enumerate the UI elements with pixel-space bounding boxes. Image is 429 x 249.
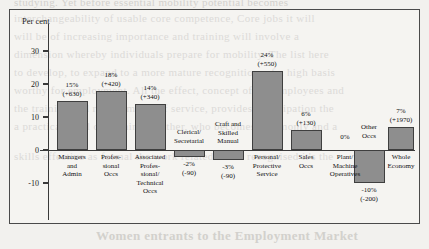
value-absolute: (+630)	[62, 90, 81, 99]
x-category-label-plant-machine-operatives: Plant/ Machine Operatives	[317, 153, 373, 179]
label-line: Technical	[122, 179, 178, 188]
y-tick-label: 0	[35, 146, 39, 155]
label-line: Manual	[200, 137, 256, 146]
label-line: Occs	[341, 132, 397, 141]
value-percent: 18%	[101, 71, 120, 80]
value-percent: -3%	[221, 163, 235, 172]
label-line: Service	[239, 170, 295, 179]
value-absolute: (+550)	[257, 60, 276, 69]
label-line: Other	[341, 123, 397, 132]
value-absolute: (-200)	[360, 195, 378, 204]
value-label-personal-protective-service: 24% (+550)	[257, 51, 276, 68]
x-category-label-whole-economy: Whole Economy	[373, 153, 420, 170]
x-category-label-associated-professional-technical-occs: Associated Profes- sional/ Technical Occ…	[122, 153, 178, 196]
label-line: Operatives	[317, 170, 373, 179]
y-tick-mark	[43, 182, 48, 183]
label-line: Associated	[122, 153, 178, 162]
value-percent: -10%	[360, 186, 378, 195]
label-line: sional/	[122, 170, 178, 179]
value-label-managers-and-admin: 15% (+630)	[62, 81, 81, 98]
scanned-page: studying. Yet before essential mobility …	[0, 0, 429, 249]
value-percent: 24%	[257, 51, 276, 60]
value-percent: 6%	[296, 110, 315, 119]
x-category-label-craft-and-skilled-manual: Craft and Skilled Manual	[200, 120, 256, 146]
value-label-clerical-secretarial: -2% (-90)	[182, 160, 196, 177]
bar-clerical-secretarial	[174, 150, 205, 157]
bar-personal-protective-service	[252, 71, 283, 150]
value-percent: 14%	[140, 84, 159, 93]
value-label-sales-occs: 6% (+130)	[296, 110, 315, 127]
y-tick-label: 30	[31, 47, 39, 56]
label-line: Economy	[373, 162, 420, 171]
bleed-text-line: studying. Yet before essential mobility …	[14, 0, 289, 8]
x-category-label-other-occs: Other Occs	[341, 123, 397, 140]
y-tick-mark	[43, 50, 48, 51]
bar-managers-and-admin	[57, 101, 88, 151]
chart-frame: Per cent 30 20 10 0 -10	[9, 9, 420, 224]
value-absolute: (+420)	[101, 80, 120, 89]
value-absolute: (+340)	[140, 93, 159, 102]
value-absolute: (-90)	[182, 169, 196, 178]
value-absolute: (-90)	[221, 172, 235, 181]
label-line: Craft and	[200, 120, 256, 129]
y-tick-label: 20	[31, 80, 39, 89]
value-label-whole-economy: 7% (+1970)	[390, 107, 413, 124]
y-tick-mark	[43, 116, 48, 117]
bleed-text-line: Women entrants to the Employment Market	[96, 228, 358, 244]
y-tick-label: -10	[28, 179, 39, 188]
value-absolute: (+130)	[296, 119, 315, 128]
value-label-craft-and-skilled-manual: -3% (-90)	[221, 163, 235, 180]
value-label-other-occs: -10% (-200)	[360, 186, 378, 203]
value-label-professional-occs: 18% (+420)	[101, 71, 120, 88]
value-percent: 15%	[62, 81, 81, 90]
y-tick-label: 10	[31, 113, 39, 122]
label-line: Skilled	[200, 129, 256, 138]
value-percent: 7%	[390, 107, 413, 116]
bar-professional-occs	[96, 91, 127, 150]
label-line: Profes-	[122, 162, 178, 171]
value-percent: -2%	[182, 160, 196, 169]
bar-chart: Per cent 30 20 10 0 -10	[10, 10, 419, 223]
value-label-associated-professional-technical-occs: 14% (+340)	[140, 84, 159, 101]
label-line: Machine	[317, 162, 373, 171]
label-line: Plant/	[317, 153, 373, 162]
y-axis-line	[48, 24, 49, 220]
bar-sales-occs	[291, 130, 322, 150]
label-line: Whole	[373, 153, 420, 162]
label-line: Occs	[122, 187, 178, 196]
y-axis-title: Per cent	[22, 16, 50, 26]
y-tick-mark	[43, 149, 48, 150]
y-tick-mark	[43, 83, 48, 84]
